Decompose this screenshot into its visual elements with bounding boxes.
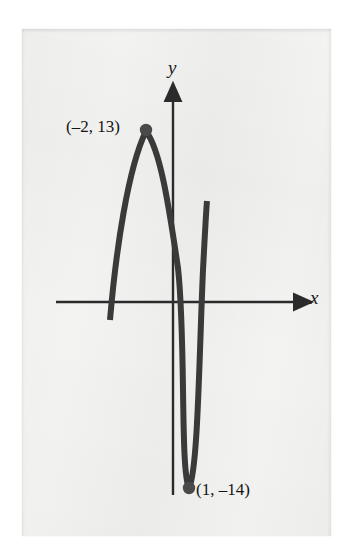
graph-canvas	[0, 0, 347, 553]
x-axis-label: x	[310, 288, 318, 307]
figure-root: y x (–2, 13) (1, –14)	[0, 0, 347, 553]
local-maximum-marker	[140, 124, 152, 136]
local-minimum-marker	[183, 482, 195, 494]
local-minimum-label: (1, –14)	[196, 481, 250, 498]
cubic-curve	[110, 131, 207, 488]
y-axis-label: y	[168, 58, 176, 77]
local-maximum-label: (–2, 13)	[66, 118, 120, 135]
